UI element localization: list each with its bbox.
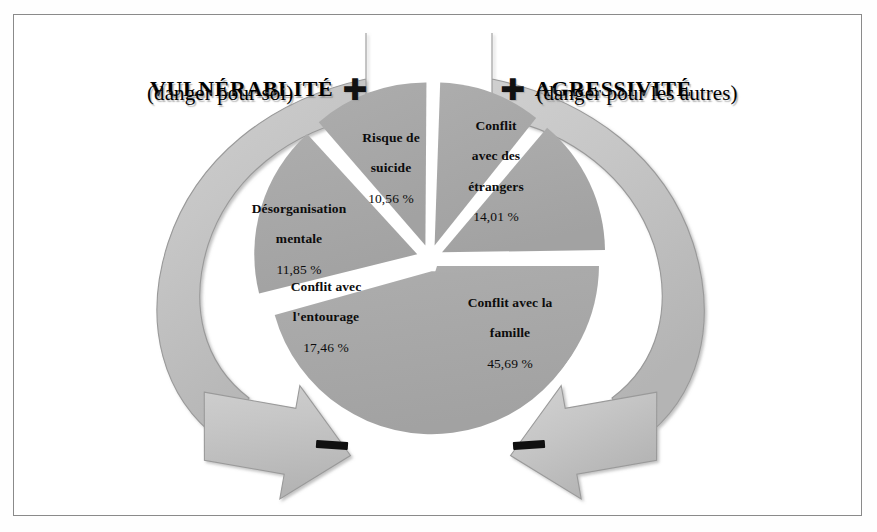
slice-label-conflit-entourage: Conflit avec l'entourage 17,46 % xyxy=(265,264,387,370)
slice-label-line1: Conflit avec xyxy=(265,279,387,294)
slice-label-line1: Conflit xyxy=(449,118,543,133)
slice-label-value: 17,46 % xyxy=(265,340,387,355)
slice-label-line1: Désorganisation xyxy=(229,201,369,216)
slice-label-conflit-famille: Conflit avec la famille 45,69 % xyxy=(440,280,580,386)
slice-label-line1: Risque de xyxy=(339,130,443,145)
slice-label-line3: étrangers xyxy=(449,179,543,194)
slice-label-line2: suicide xyxy=(339,160,443,175)
slice-label-line2: l'entourage xyxy=(265,309,387,324)
slice-label-line2: avec des xyxy=(449,148,543,163)
slice-label-conflit-etrangers: Conflit avec des étrangers 14,01 % xyxy=(449,103,543,239)
slice-label-line2: famille xyxy=(440,325,580,340)
slice-label-value: 14,01 % xyxy=(449,209,543,224)
slice-label-line2: mentale xyxy=(229,231,369,246)
vulnerability-subtitle: (danger pour soi) xyxy=(147,82,407,106)
figure-stage: VULNÉRABLITÉ ✚ (danger pour soi) ✚ AGRES… xyxy=(0,0,877,532)
slice-label-line1: Conflit avec la xyxy=(440,295,580,310)
slice-label-value: 45,69 % xyxy=(440,356,580,371)
aggressiveness-subtitle: (danger pour les autres) xyxy=(512,82,762,106)
figure-root: VULNÉRABLITÉ ✚ (danger pour soi) ✚ AGRES… xyxy=(0,0,877,532)
